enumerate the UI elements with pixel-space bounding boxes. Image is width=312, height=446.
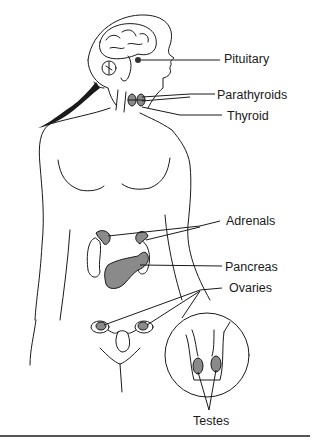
adrenal-gland-right	[136, 232, 148, 245]
label-adrenals: Adrenals	[226, 214, 275, 228]
label-pituitary: Pituitary	[224, 52, 269, 66]
bottom-rule	[0, 435, 310, 437]
pituitary-gland	[135, 57, 141, 63]
label-thyroid: Thyroid	[227, 109, 269, 123]
leader-lines	[104, 60, 222, 410]
label-parathyroids: Parathyroids	[217, 88, 287, 102]
label-pancreas: Pancreas	[225, 260, 278, 274]
body-outline	[30, 108, 210, 365]
thyroid-gland	[128, 94, 145, 106]
uterus-ovaries	[91, 321, 153, 392]
pancreas	[105, 252, 149, 288]
label-ovaries: Ovaries	[229, 281, 272, 295]
label-testes: Testes	[193, 414, 229, 428]
ponytail	[38, 82, 100, 128]
adrenal-gland-left	[96, 231, 110, 245]
brain	[99, 24, 156, 81]
testes-inset	[165, 313, 249, 397]
